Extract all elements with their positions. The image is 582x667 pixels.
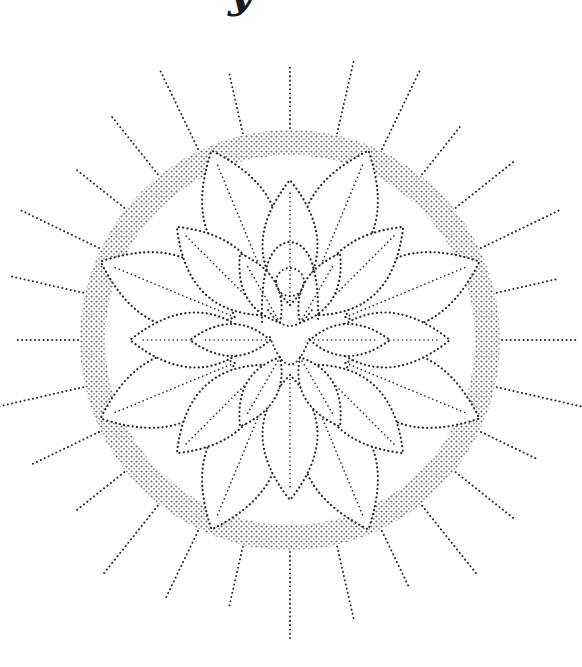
lotus-mandala-drawing: [0, 0, 582, 667]
inner-petals: [130, 180, 450, 500]
illustration: y: [0, 0, 582, 667]
clipped-title-glyph: y: [228, 0, 254, 14]
